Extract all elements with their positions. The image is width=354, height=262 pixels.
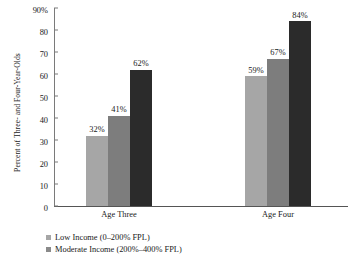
y-tick-label: 90% <box>33 6 54 15</box>
y-tick: 50 <box>0 87 54 105</box>
y-tick: 60 <box>0 65 54 83</box>
y-tick-label: 10 <box>40 182 54 191</box>
bar-wrap: 32% <box>86 136 108 206</box>
bar-value-label: 41% <box>111 105 126 114</box>
bar-wrap: 41% <box>108 116 130 206</box>
bar: 32% <box>86 136 108 206</box>
chart-legend: Low Income (0–200% FPL)Moderate Income (… <box>46 231 182 255</box>
y-tick-label: 40 <box>40 116 54 125</box>
x-axis-line <box>54 206 348 207</box>
bar: 67% <box>267 59 289 206</box>
y-tick-label: 70 <box>40 50 54 59</box>
y-tick: 20 <box>0 153 54 171</box>
x-category-label: Age Four <box>262 210 294 219</box>
bar-value-label: 32% <box>89 125 104 134</box>
y-tick: 30 <box>0 131 54 149</box>
y-tick-label: 50 <box>40 94 54 103</box>
y-tick-label: 60 <box>40 72 54 81</box>
bar-value-label: 59% <box>248 66 263 75</box>
bar-wrap: 67% <box>267 59 289 206</box>
y-tick-label: 80 <box>40 28 54 37</box>
bar: 62% <box>130 70 152 206</box>
y-tick: 10 <box>0 175 54 193</box>
y-tick-label: 30 <box>40 138 54 147</box>
x-category-label: Age Three <box>101 210 136 219</box>
legend-label: Moderate Income (200%–400% FPL) <box>55 245 182 254</box>
bar-chart-figure: Percent of Three- and Four-Year-Olds 90%… <box>0 0 354 262</box>
bar-wrap: 59% <box>245 76 267 206</box>
bar-wrap: 62% <box>130 70 152 206</box>
bar-group: 32%41%62% <box>86 8 152 206</box>
bar-group: 59%67%84% <box>245 8 311 206</box>
y-tick-label: 20 <box>40 160 54 169</box>
bar: 84% <box>289 21 311 206</box>
bar-value-label: 84% <box>292 11 307 20</box>
legend-item[interactable]: Low Income (0–200% FPL) <box>46 231 182 243</box>
bar-value-label: 67% <box>270 48 285 57</box>
plot-area: 32%41%62%59%67%84% <box>54 8 348 206</box>
legend-item[interactable]: Moderate Income (200%–400% FPL) <box>46 243 182 255</box>
bar-value-label: 62% <box>133 59 148 68</box>
y-tick: 40 <box>0 109 54 127</box>
legend-swatch-icon <box>46 235 51 240</box>
y-tick: 90% <box>0 0 54 17</box>
y-tick: 70 <box>0 43 54 61</box>
legend-swatch-icon <box>46 247 51 252</box>
y-tick: 0 <box>0 197 54 215</box>
bar: 41% <box>108 116 130 206</box>
bar: 59% <box>245 76 267 206</box>
y-tick: 80 <box>0 21 54 39</box>
bar-wrap: 84% <box>289 21 311 206</box>
legend-label: Low Income (0–200% FPL) <box>55 233 150 242</box>
y-tick-label: 0 <box>44 204 54 213</box>
